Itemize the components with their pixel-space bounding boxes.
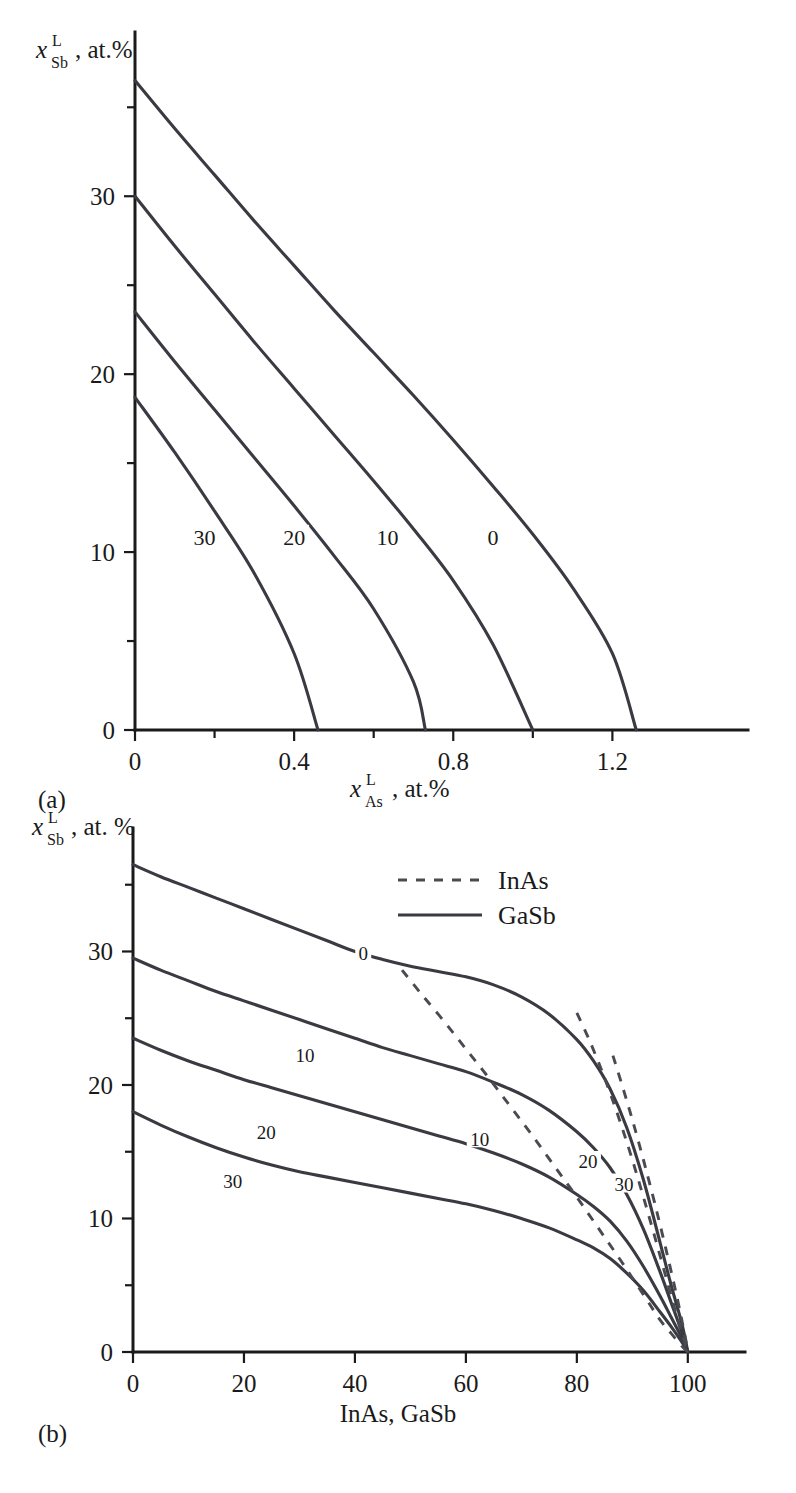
panel-b-y-axis-sup: L	[48, 809, 58, 826]
panel-b-legend: InAs GaSb	[398, 866, 556, 930]
legend-label-gasb: GaSb	[498, 901, 556, 930]
panel-b-x-ticks: 020406080100	[127, 1352, 707, 1397]
panel-a-plot: 0102030 00.40.81.2 0102030 x L Sb , at.%…	[0, 0, 796, 810]
x-tick-label: 0.8	[438, 748, 469, 775]
contour-curve-GaSb-10	[133, 958, 688, 1352]
contour-label: 0	[488, 525, 499, 550]
y-tick-label: 30	[88, 938, 113, 965]
panel-b-contour-labels: 0102030102030	[220, 943, 637, 1195]
contour-label: 30	[223, 1171, 242, 1192]
y-tick-label: 20	[90, 361, 115, 388]
contour-curve-GaSb-30	[133, 1112, 688, 1352]
contour-label: 20	[283, 525, 305, 550]
panel-b-y-axis-sub: Sb	[47, 831, 64, 848]
contour-curve-GaSb-0	[133, 865, 688, 1352]
contour-label: 30	[615, 1174, 634, 1195]
x-tick-label: 80	[564, 1370, 589, 1397]
contour-label: 10	[377, 525, 399, 550]
panel-b-y-ticks: 0102030	[88, 885, 133, 1366]
panel-b-plot: 0102030 020406080100 0102030102030 InAs …	[0, 790, 796, 1493]
panel-a-y-axis-title: x L Sb , at.%	[35, 32, 133, 71]
x-tick-label: 0	[129, 748, 142, 775]
panel-b-letter: (b)	[38, 1420, 67, 1447]
legend-label-inas: InAs	[498, 866, 549, 895]
panel-a-y-axis-sub: Sb	[51, 54, 68, 71]
x-tick-label: 40	[342, 1370, 367, 1397]
panel-a-axes	[135, 32, 748, 730]
contour-label: 20	[578, 1151, 597, 1172]
y-tick-label: 0	[101, 1339, 114, 1366]
x-tick-label: 20	[231, 1370, 256, 1397]
panel-b-letter-wrap: (b)	[38, 1420, 67, 1448]
contour-label: 10	[295, 1045, 314, 1066]
panel-a-y-axis-unit: , at.%	[75, 36, 133, 63]
y-tick-label: 10	[88, 1205, 113, 1232]
y-tick-label: 10	[90, 539, 115, 566]
panel-b-y-axis-title: x L Sb , at. %	[31, 809, 135, 848]
contour-label: 10	[470, 1129, 489, 1150]
panel-a: 0102030 00.40.81.2 0102030 x L Sb , at.%…	[0, 0, 796, 810]
panel-a-y-ticks: 0102030	[90, 107, 135, 744]
panel-a-x-ticks: 00.40.81.2	[129, 730, 628, 775]
x-tick-label: 1.2	[597, 748, 628, 775]
panel-a-x-axis-sup: L	[366, 771, 376, 788]
contour-label: 20	[257, 1122, 276, 1143]
contour-curve-a-30	[135, 397, 318, 730]
y-tick-label: 0	[103, 717, 116, 744]
panel-b-y-axis-var: x	[31, 813, 43, 840]
panel-b-y-axis-unit: , at. %	[71, 813, 135, 840]
x-tick-label: 100	[669, 1370, 707, 1397]
contour-label: 30	[194, 525, 216, 550]
panel-b-axes	[133, 828, 745, 1352]
panel-b-curves	[133, 865, 688, 1352]
panel-b: 0102030 020406080100 0102030102030 InAs …	[0, 790, 796, 1493]
x-tick-label: 0.4	[279, 748, 311, 775]
panel-a-curves	[135, 81, 636, 730]
panel-b-x-axis-title: InAs, GaSb	[340, 1400, 457, 1427]
panel-a-y-axis-var: x	[35, 36, 47, 63]
figure-root: 0102030 00.40.81.2 0102030 x L Sb , at.%…	[0, 0, 796, 1493]
x-tick-label: 60	[453, 1370, 478, 1397]
x-tick-label: 0	[127, 1370, 140, 1397]
contour-label: 0	[358, 943, 368, 964]
y-tick-label: 30	[90, 183, 115, 210]
contour-curve-GaSb-20	[133, 1038, 688, 1352]
y-tick-label: 20	[88, 1072, 113, 1099]
panel-a-y-axis-sup: L	[52, 32, 62, 49]
